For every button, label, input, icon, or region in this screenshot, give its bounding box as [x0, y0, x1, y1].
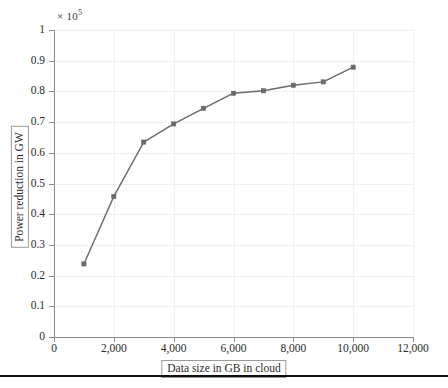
data-point-marker: [231, 91, 235, 95]
series-line-power-reduction: [84, 67, 353, 264]
data-point-marker: [82, 262, 86, 266]
chart-figure: × 105 00.10.20.30.40.50.60.70.80.91 02,0…: [0, 0, 448, 388]
data-point-marker: [321, 80, 325, 84]
page-bottom-rule: [0, 375, 448, 377]
data-series-layer: [0, 0, 448, 388]
data-point-marker: [142, 140, 146, 144]
data-point-marker: [172, 122, 176, 126]
y-axis-title-wrapper: Power reduction in GW: [10, 112, 30, 262]
data-point-marker: [291, 83, 295, 87]
data-point-marker: [201, 106, 205, 110]
y-axis-title: Power reduction in GW: [11, 126, 29, 248]
data-point-marker: [351, 65, 355, 69]
data-point-marker: [112, 194, 116, 198]
series-markers: [82, 65, 355, 266]
data-point-marker: [261, 89, 265, 93]
